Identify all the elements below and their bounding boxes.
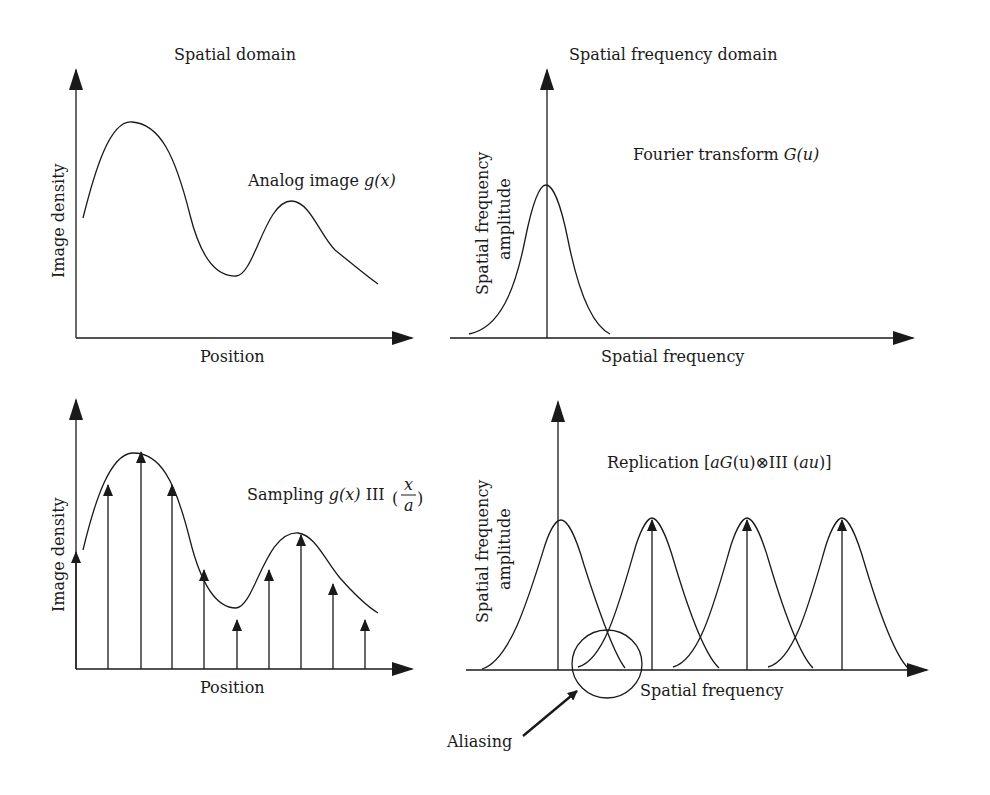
svg-text:(: (	[392, 489, 398, 508]
x-axis-label: Spatial frequency	[601, 347, 744, 366]
y-axis-label: Image density	[49, 497, 68, 612]
aliasing-arrow	[523, 691, 577, 736]
x-axis-label: Position	[200, 678, 265, 697]
y-axis-label-line1: Spatial frequency	[473, 152, 492, 295]
sampled-signal-curve	[83, 453, 378, 613]
panel-title: Spatial domain	[174, 45, 296, 64]
curve-label: Replication [aG(u)⊗III (au)]	[607, 453, 831, 472]
svg-text:): )	[417, 489, 423, 508]
svg-text:Sampling g(x) III: Sampling g(x) III	[247, 485, 385, 504]
panel-spatial-domain: Spatial domain Image density Position An…	[49, 45, 412, 366]
svg-text:a: a	[404, 496, 414, 515]
panel-replication: Spatial frequency amplitude Spatial freq…	[446, 402, 927, 751]
x-axis-label: Position	[200, 347, 265, 366]
aliasing-annotation: Aliasing	[446, 732, 512, 751]
y-axis-label: Image density	[49, 163, 68, 278]
y-axis-label-line2: amplitude	[495, 508, 514, 590]
curve-label: Analog image g(x)	[247, 171, 396, 190]
x-axis-label: Spatial frequency	[640, 681, 783, 700]
spectrum-replica	[578, 518, 719, 668]
sampling-aliasing-diagram: Spatial domain Image density Position An…	[0, 0, 990, 795]
panel-title: Spatial frequency domain	[569, 45, 777, 64]
spectrum-replica	[673, 518, 813, 668]
panel-frequency-domain: Spatial frequency domain Spatial frequen…	[450, 45, 913, 366]
aliasing-circle	[572, 630, 642, 698]
svg-text:x: x	[404, 475, 413, 494]
curve-label: Sampling g(x) III ( x a )	[247, 475, 423, 515]
replicated-spectra	[482, 518, 908, 669]
y-axis-label-line1: Spatial frequency	[473, 480, 492, 623]
spectrum-replica	[768, 518, 908, 668]
replication-impulses	[652, 520, 842, 670]
curve-label: Fourier transform G(u)	[633, 145, 819, 164]
y-axis-label-line2: amplitude	[495, 178, 514, 260]
panel-sampling: Image density Position Sampling g(x) III…	[49, 400, 423, 697]
analog-signal-curve	[83, 122, 378, 284]
